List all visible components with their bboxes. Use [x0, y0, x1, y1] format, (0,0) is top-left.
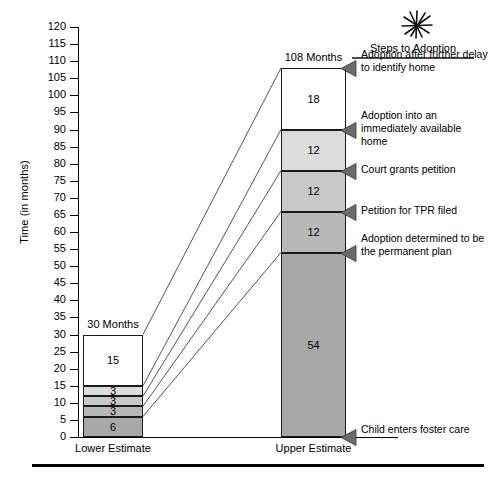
y-tick-label: 110 [36, 55, 66, 66]
connector-line [143, 171, 281, 397]
annotation-label: Adoption determined to be the permanent … [361, 232, 489, 258]
y-tick-label: 45 [36, 277, 66, 288]
y-tick-label: 5 [36, 414, 66, 425]
y-tick-label: 20 [36, 363, 66, 374]
y-tick-label: 120 [36, 21, 66, 32]
y-tick [70, 352, 78, 353]
y-tick [70, 420, 78, 421]
category-label-lower: Lower Estimate [53, 442, 173, 454]
y-tick [70, 300, 78, 301]
y-tick [70, 369, 78, 370]
bar-segment: 12 [281, 212, 346, 253]
y-axis-label: Time (in months) [18, 132, 30, 272]
y-tick [70, 198, 78, 199]
y-tick-label: 35 [36, 311, 66, 322]
y-tick-label: 95 [36, 106, 66, 117]
y-tick [70, 249, 78, 250]
y-tick-label: 100 [36, 89, 66, 100]
y-tick-label: 70 [36, 192, 66, 203]
y-tick [70, 130, 78, 131]
y-tick-label: 25 [36, 346, 66, 357]
y-tick [70, 112, 78, 113]
y-tick-label: 50 [36, 260, 66, 271]
connector-line [143, 212, 281, 407]
connector-line [143, 68, 281, 335]
bar-segment: 3 [83, 406, 143, 416]
annotation-arrow-icon [341, 429, 357, 446]
bar-segment: 6 [83, 417, 143, 438]
y-tick [70, 61, 78, 62]
y-tick [70, 215, 78, 216]
y-tick-label: 115 [36, 38, 66, 49]
starburst-icon [396, 8, 438, 42]
bar-segment: 54 [281, 253, 346, 438]
y-axis-line [78, 27, 79, 438]
y-tick [70, 181, 78, 182]
y-tick-label: 55 [36, 243, 66, 254]
y-tick-label: 90 [36, 124, 66, 135]
y-tick [70, 403, 78, 404]
y-tick [70, 232, 78, 233]
bar-segment: 12 [281, 171, 346, 212]
y-tick [70, 266, 78, 267]
bar-segment: 18 [281, 68, 346, 130]
y-tick [70, 386, 78, 387]
y-tick [70, 164, 78, 165]
annotation-arrow-icon [341, 122, 357, 139]
y-tick [70, 44, 78, 45]
annotation-label: Adoption after further delay to identify… [361, 48, 489, 74]
category-label-upper: Upper Estimate [251, 442, 376, 454]
annotation-label: Court grants petition [361, 163, 489, 176]
y-tick-label: 0 [36, 431, 66, 442]
connector-line [143, 130, 281, 386]
y-tick-label: 60 [36, 226, 66, 237]
bar-total-lower: 30 Months [63, 318, 163, 330]
annotation-label: Adoption into an immediately available h… [361, 109, 489, 148]
connector-line [143, 253, 281, 417]
annotation-label: Petition for TPR filed [361, 204, 489, 217]
y-tick-label: 40 [36, 294, 66, 305]
y-tick-label: 10 [36, 397, 66, 408]
bar-segment: 15 [83, 335, 143, 386]
y-tick [70, 95, 78, 96]
annotation-arrow-icon [341, 60, 357, 77]
y-tick-label: 75 [36, 175, 66, 186]
y-tick-label: 105 [36, 72, 66, 83]
y-tick [70, 437, 78, 438]
annotation-arrow-icon [341, 163, 357, 180]
y-tick [70, 147, 78, 148]
bar-segment: 12 [281, 130, 346, 171]
y-tick [70, 78, 78, 79]
annotation-arrow-icon [341, 245, 357, 262]
y-tick-label: 15 [36, 380, 66, 391]
y-tick [70, 335, 78, 336]
y-tick [70, 27, 78, 28]
y-tick-label: 65 [36, 209, 66, 220]
y-tick-label: 80 [36, 158, 66, 169]
bottom-rule [32, 464, 484, 467]
y-tick-label: 85 [36, 141, 66, 152]
annotation-arrow-icon [341, 204, 357, 221]
y-tick-label: 30 [36, 329, 66, 340]
chart-figure: Time (in months) 12011511010510095908580… [0, 0, 492, 479]
y-tick [70, 283, 78, 284]
annotation-label: Child enters foster care [361, 423, 489, 436]
